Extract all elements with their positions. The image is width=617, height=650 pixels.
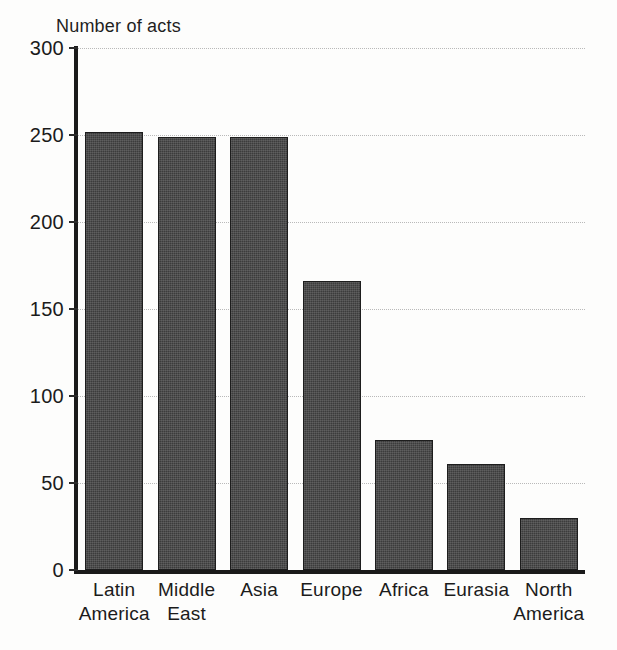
bar-slot <box>158 48 216 570</box>
y-axis-tick-label: 50 <box>41 472 64 495</box>
y-axis-label: Number of acts <box>56 16 181 37</box>
y-axis-tick <box>69 395 78 397</box>
bar-slot <box>375 48 433 570</box>
y-axis-tick-label: 0 <box>53 559 64 582</box>
bar-africa <box>375 440 433 571</box>
y-axis-tick-label: 100 <box>30 385 64 408</box>
bar-eurasia <box>447 464 505 570</box>
category-label-middle-east: MiddleEast <box>150 578 222 626</box>
y-axis-tick-label: 200 <box>30 211 64 234</box>
bar-slot <box>230 48 288 570</box>
plot-area: 050100150200250300 <box>78 48 585 570</box>
bar-middle-east <box>158 137 216 570</box>
y-axis-tick <box>69 569 78 571</box>
category-label-europe: Europe <box>295 578 367 602</box>
category-label-asia: Asia <box>223 578 295 602</box>
y-axis-tick <box>69 308 78 310</box>
bar-slot <box>447 48 505 570</box>
bar-europe <box>303 281 361 570</box>
y-axis-tick <box>69 134 78 136</box>
bar-asia <box>230 137 288 570</box>
y-axis-tick-label: 150 <box>30 298 64 321</box>
bar-north-america <box>520 518 578 570</box>
x-axis-category-labels: LatinAmericaMiddleEastAsiaEuropeAfricaEu… <box>78 578 585 636</box>
category-label-north-america: NorthAmerica <box>513 578 585 626</box>
y-axis-tick-label: 300 <box>30 37 64 60</box>
cropped-title-sliver <box>0 0 617 9</box>
y-axis-tick <box>69 221 78 223</box>
bar-slot <box>520 48 578 570</box>
bar-slot <box>85 48 143 570</box>
bar-latin-america <box>85 132 143 570</box>
category-label-eurasia: Eurasia <box>440 578 512 602</box>
category-label-africa: Africa <box>368 578 440 602</box>
y-axis-tick <box>69 482 78 484</box>
y-axis-tick <box>69 47 78 49</box>
category-label-latin-america: LatinAmerica <box>78 578 150 626</box>
y-axis-tick-label: 250 <box>30 124 64 147</box>
x-axis-line <box>74 570 585 574</box>
bar-slot <box>303 48 361 570</box>
bar-series <box>78 48 585 570</box>
